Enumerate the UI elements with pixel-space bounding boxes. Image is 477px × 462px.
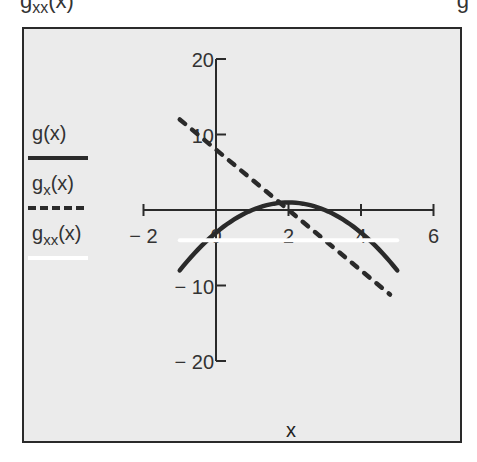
- legend-label: gxx(x): [28, 222, 98, 248]
- y-tick-label: 20: [192, 49, 214, 71]
- series-line-g_xx: [180, 119, 390, 294]
- y-tick-label: − 20: [175, 351, 214, 373]
- legend-swatch-white: [28, 256, 88, 260]
- legend-entry-gxx: gxx(x): [28, 222, 98, 272]
- legend-label: g(x): [28, 122, 98, 148]
- legend-swatch-dashed: [28, 206, 84, 210]
- legend-swatch-solid: [28, 156, 88, 160]
- legend: g(x) gx(x) gxx(x): [28, 122, 98, 272]
- x-tick-label: 2: [283, 225, 294, 247]
- legend-entry-gx: gx(x): [28, 172, 98, 222]
- x-tick-label: − 2: [129, 225, 157, 247]
- y-tick-label: − 10: [175, 276, 214, 298]
- x-axis-title: x: [286, 419, 296, 441]
- x-tick-label: 6: [428, 225, 439, 247]
- legend-label: gx(x): [28, 172, 98, 198]
- legend-entry-g: g(x): [28, 122, 98, 172]
